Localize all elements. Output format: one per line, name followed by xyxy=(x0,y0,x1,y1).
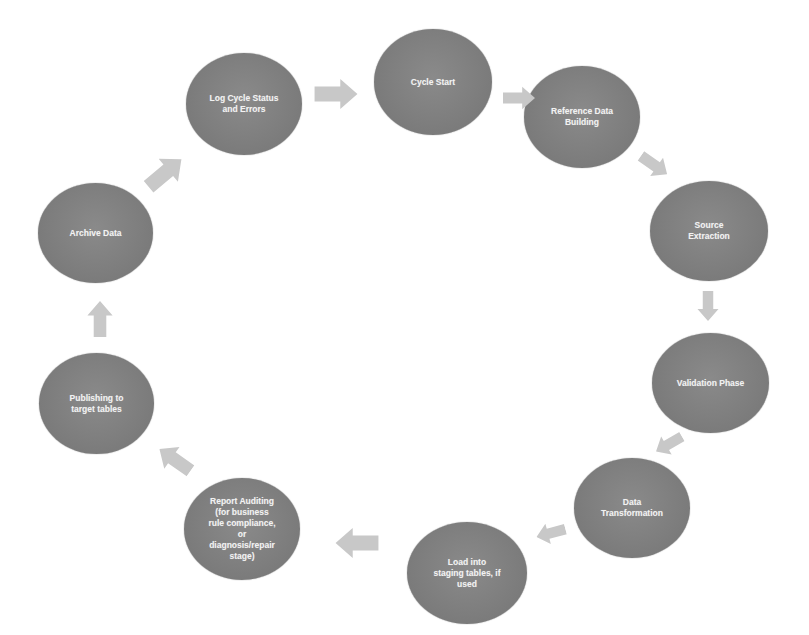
node-label: Source Extraction xyxy=(678,220,740,242)
arrow-left-icon xyxy=(533,517,569,550)
node-source-extraction: Source Extraction xyxy=(650,181,768,281)
node-label: Archive Data xyxy=(60,228,132,239)
arrow-right-icon xyxy=(503,84,535,112)
arrow-up-icon xyxy=(85,301,115,337)
node-label: Load into staging tables, if used xyxy=(423,557,510,590)
node-log-cycle-status: Log Cycle Status and Errors xyxy=(186,53,302,155)
arrow-down-right-icon xyxy=(633,144,675,185)
node-reference-data-building: Reference Data Building xyxy=(524,66,640,168)
node-label: Validation Phase xyxy=(667,378,755,389)
node-label: Reference Data Building xyxy=(541,106,623,128)
node-archive-data: Archive Data xyxy=(38,183,153,283)
node-label: Publishing to target tables xyxy=(60,393,134,415)
arrow-left-icon xyxy=(330,528,384,558)
node-label: Cycle Start xyxy=(401,77,465,88)
node-validation-phase: Validation Phase xyxy=(652,333,769,433)
node-report-auditing: Report Auditing (for business rule compl… xyxy=(184,478,300,580)
arrow-down-left-icon xyxy=(650,426,688,462)
arrow-up-left-icon xyxy=(151,438,198,483)
node-label: Data Transformation xyxy=(591,497,673,519)
arrow-up-right-icon xyxy=(139,147,192,198)
arrow-right-icon xyxy=(314,79,358,109)
node-label: Report Auditing (for business rule compl… xyxy=(198,496,285,562)
node-load-into-staging: Load into staging tables, if used xyxy=(407,522,527,624)
arrow-down-icon xyxy=(695,291,721,321)
node-data-transformation: Data Transformation xyxy=(574,458,690,558)
node-publishing: Publishing to target tables xyxy=(39,353,154,454)
node-cycle-start: Cycle Start xyxy=(374,29,492,135)
node-label: Log Cycle Status and Errors xyxy=(200,93,289,115)
etl-cycle-diagram: Cycle Start Reference Data Building Sour… xyxy=(0,0,809,635)
